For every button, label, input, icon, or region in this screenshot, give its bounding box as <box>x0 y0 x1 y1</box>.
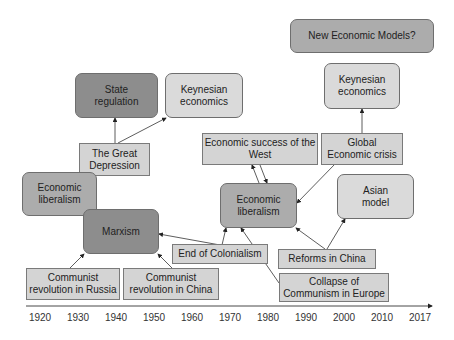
node-global-economic-crisis: Global Economic crisis <box>321 133 403 165</box>
node-label: Economic liberalism <box>237 194 281 218</box>
node-label: State regulation <box>95 84 139 108</box>
node-marxism: Marxism <box>83 209 159 254</box>
node-keynesian-economics-right: Keynesian economics <box>324 63 400 109</box>
node-state-regulation: State regulation <box>75 73 158 118</box>
node-label: Marxism <box>102 226 140 238</box>
year-label: 1940 <box>101 312 131 323</box>
year-label: 1980 <box>253 312 283 323</box>
node-label: Communist revolution in Russia <box>29 272 116 296</box>
node-label: Economic success of the West <box>205 137 316 161</box>
node-label: Keynesian economics <box>180 84 228 108</box>
node-label: Communist revolution in China <box>130 272 213 296</box>
node-label: Economic liberalism <box>38 182 82 206</box>
year-label: 1930 <box>63 312 93 323</box>
node-reforms-in-china: Reforms in China <box>278 249 376 269</box>
node-economic-success-west: Economic success of the West <box>202 133 318 165</box>
node-label: Reforms in China <box>288 253 365 265</box>
node-label: The Great Depression <box>89 148 140 172</box>
node-label: Global Economic crisis <box>327 137 396 161</box>
node-end-of-colonialism: End of Colonialism <box>172 244 268 264</box>
node-label: New Economic Models? <box>308 30 415 42</box>
node-label: Asian model <box>362 185 389 209</box>
year-label: 1990 <box>291 312 321 323</box>
node-collapse-of-communism: Collapse of Communism in Europe <box>279 273 389 302</box>
node-label: Keynesian economics <box>338 74 386 98</box>
node-label: Collapse of Communism in Europe <box>283 276 385 300</box>
node-asian-model: Asian model <box>337 174 414 219</box>
node-communist-revolution-china: Communist revolution in China <box>123 268 219 300</box>
node-economic-liberalism-center: Economic liberalism <box>220 183 297 228</box>
node-communist-revolution-russia: Communist revolution in Russia <box>26 268 120 300</box>
year-label: 2000 <box>329 312 359 323</box>
year-label: 1970 <box>215 312 245 323</box>
year-label: 1950 <box>139 312 169 323</box>
node-keynesian-economics-left: Keynesian economics <box>165 73 243 118</box>
year-label: 1960 <box>177 312 207 323</box>
year-label: 1920 <box>25 312 55 323</box>
node-label: End of Colonialism <box>178 248 261 260</box>
year-label: 2010 <box>367 312 397 323</box>
node-new-economic-models: New Economic Models? <box>290 19 434 53</box>
year-label: 2017 <box>405 312 435 323</box>
